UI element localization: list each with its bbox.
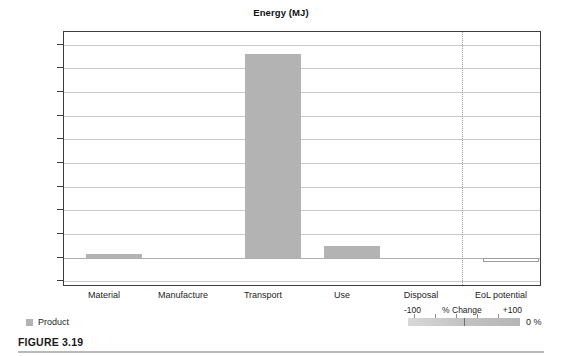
- ytick-mark-3000000: [57, 115, 63, 116]
- category-separator-dotted-line: [462, 32, 463, 285]
- ytick-mark-3500000: [57, 91, 63, 92]
- bar-transport[interactable]: [245, 54, 301, 258]
- percent-change-tick-2: [435, 314, 436, 318]
- legend-swatch-product: [26, 319, 33, 326]
- percent-change-tick-4: [477, 314, 478, 318]
- percent-change-min-label: -100: [404, 305, 421, 315]
- gridline-4500000: [64, 45, 540, 46]
- caption-divider-rule: [18, 351, 544, 353]
- figure-caption: FIGURE 3.19: [18, 336, 83, 348]
- gridline-3500000: [64, 92, 540, 93]
- xtick-label-use: Use: [334, 290, 350, 300]
- percent-change-title: % Change: [442, 305, 482, 315]
- xtick-label-transport: Transport: [244, 290, 282, 300]
- xtick-label-disposal: Disposal: [404, 290, 439, 300]
- bar-eol-potential[interactable]: [483, 258, 539, 262]
- bar-material[interactable]: [86, 254, 142, 258]
- chart-legend: Product: [26, 317, 69, 327]
- ytick-mark-2000000: [57, 162, 63, 163]
- ytick-mark-4000000: [57, 67, 63, 68]
- gridline-2000000: [64, 163, 540, 164]
- gridline-500000: [64, 234, 540, 235]
- xtick-label-eol-potential: EoL potential: [475, 290, 527, 300]
- gridline-4000000: [64, 68, 540, 69]
- chart-title: Energy (MJ): [0, 7, 562, 18]
- gridline-1000000: [64, 210, 540, 211]
- ytick-mark-2500000: [57, 138, 63, 139]
- gridline-zero: [64, 258, 540, 259]
- gridline-3000000: [64, 116, 540, 117]
- ytick-mark-500000: [57, 233, 63, 234]
- gridline-1500000: [64, 187, 540, 188]
- bar-use[interactable]: [324, 246, 380, 258]
- xtick-label-manufacture: Manufacture: [158, 290, 208, 300]
- ytick-mark-0: [57, 257, 63, 258]
- percent-change-marker[interactable]: [464, 318, 465, 326]
- percent-change-captions: -100 % Change +100: [404, 305, 522, 315]
- percent-change-value: 0 %: [526, 317, 542, 327]
- percent-change-tick-1: [414, 314, 415, 318]
- ytick-mark-4500000: [57, 44, 63, 45]
- gridline-2500000: [64, 139, 540, 140]
- ytick-mark-1500000: [57, 186, 63, 187]
- plot-area: [63, 31, 541, 286]
- legend-label-product: Product: [38, 317, 69, 327]
- xtick-label-material: Material: [88, 290, 120, 300]
- gridline-minus500000: [64, 281, 540, 282]
- percent-change-tick-5: [498, 314, 499, 318]
- percent-change-max-label: +100: [503, 305, 522, 315]
- percent-change-scale[interactable]: -100 % Change +100 0 %: [404, 305, 562, 333]
- percent-change-tick-3: [456, 314, 457, 318]
- ytick-mark-minus500000: [57, 280, 63, 281]
- ytick-mark-1000000: [57, 209, 63, 210]
